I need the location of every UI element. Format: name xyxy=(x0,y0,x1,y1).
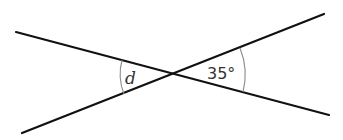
angle-label-d: d xyxy=(125,68,136,88)
angle-label-35: 35° xyxy=(207,64,235,83)
angle-arc-left xyxy=(120,60,124,94)
intersecting-lines-diagram: d 35° xyxy=(0,0,343,140)
angle-arc-right xyxy=(240,48,245,92)
line-b xyxy=(22,14,324,133)
